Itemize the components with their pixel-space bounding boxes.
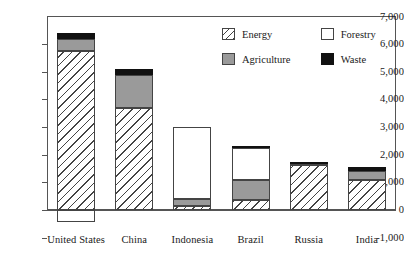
bar-segment-waste: [57, 33, 95, 39]
legend-label-forestry: Forestry: [341, 29, 376, 40]
energy-swatch-icon: [222, 28, 235, 40]
y-axis-tick-mark: [42, 182, 47, 183]
bar-group: [115, 0, 153, 254]
y-axis-tick-mark: [42, 155, 47, 156]
chart-legend: Energy Forestry Agriculture Waste: [222, 28, 392, 65]
bar-segment-energy: [115, 108, 153, 210]
bar-segment-waste: [290, 162, 328, 164]
bar-group: [57, 0, 95, 254]
y-axis-tick-mark: [42, 72, 47, 73]
bar-segment-agriculture: [115, 75, 153, 108]
x-axis-tick-label: China: [105, 234, 163, 246]
bar-segment-agriculture: [173, 199, 211, 206]
bar-segment-energy: [232, 200, 270, 210]
stacked-bar-chart: 7,0006,0005,0004,0003,0002,0001,0000-1,0…: [0, 0, 404, 254]
legend-item-energy: Energy: [222, 28, 307, 40]
bar-segment-energy: [290, 165, 328, 210]
y-axis-tick-mark: [42, 99, 47, 100]
bar-segment-waste: [232, 146, 270, 148]
waste-swatch-icon: [321, 53, 334, 65]
bar-segment-forestry: [57, 210, 95, 222]
bar-segment-forestry: [173, 127, 211, 199]
bar-segment-energy: [348, 180, 386, 210]
forestry-swatch-icon: [321, 28, 334, 40]
bar-group: [173, 0, 211, 254]
legend-label-energy: Energy: [242, 29, 272, 40]
legend-label-agriculture: Agriculture: [242, 54, 290, 65]
bar-segment-waste: [348, 167, 386, 171]
y-axis-tick-mark: [42, 44, 47, 45]
legend-item-waste: Waste: [321, 53, 392, 65]
legend-item-agriculture: Agriculture: [222, 53, 307, 65]
agriculture-swatch-icon: [222, 53, 235, 65]
y-axis-tick-mark: [42, 127, 47, 128]
x-axis-tick-label: United States: [47, 234, 105, 246]
bar-segment-agriculture: [232, 180, 270, 201]
bar-segment-waste: [115, 69, 153, 75]
bar-segment-agriculture: [57, 39, 95, 51]
legend-item-forestry: Forestry: [321, 28, 392, 40]
x-axis-tick-label: Russia: [280, 234, 338, 246]
bar-segment-forestry: [232, 148, 270, 180]
x-axis-tick-label: India: [338, 234, 396, 246]
bar-segment-energy: [173, 206, 211, 210]
x-axis-tick-label: Brazil: [222, 234, 280, 246]
y-axis-tick-mark: [42, 210, 47, 211]
bar-segment-agriculture: [290, 164, 328, 166]
x-axis-tick-label: Indonesia: [163, 234, 221, 246]
bar-segment-agriculture: [348, 171, 386, 179]
bar-segment-energy: [57, 51, 95, 210]
legend-label-waste: Waste: [341, 54, 366, 65]
zero-baseline: [47, 210, 396, 211]
